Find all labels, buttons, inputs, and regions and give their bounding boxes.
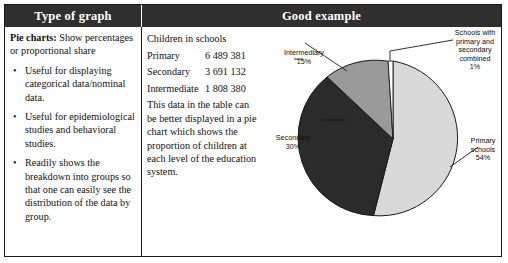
header-cell-good-example: Good example [142,5,501,27]
cell-graph-description: Pie charts: Show percentages or proporti… [5,27,141,256]
row-value-intermediate: 1 808 380 [205,81,246,98]
header-label-good-example: Good example [282,9,361,24]
row-label-intermediate: Intermediate [147,81,205,98]
row-label-secondary: Secondary [147,64,205,81]
pie-label-primary-percent: 54% [462,154,504,163]
pie-label-primary: Primary schools 54% [462,137,504,163]
example-explanation-paragraph: This data in the table can be better dis… [147,98,260,178]
table-row: Secondary3 691 132 [147,64,260,81]
pie-charts-benefits-list: • Useful for displaying categorical data… [10,64,135,223]
list-item: • Useful for epidemiological studies and… [10,110,135,150]
pie-label-secondary: Secondary 30% [264,134,322,151]
row-value-secondary: 3 691 132 [205,64,246,81]
list-item-text: Readily shows the breakdown into groups … [25,157,131,222]
pie-label-secondary-percent: 30% [264,143,322,152]
list-item-text: Useful for epidemiological studies and b… [25,111,135,149]
table-row: Primary6 489 381 [147,48,260,65]
list-item: • Useful for displaying categorical data… [10,64,135,104]
data-table-title: Children in schools [147,31,260,48]
bullet-icon: • [13,64,17,77]
pie-charts-definition: Pie charts: Show percentages or proporti… [10,31,135,58]
pie-chart: Intermediary 15% Secondary 30% Schools w… [264,27,501,256]
list-item-text: Useful for displaying categorical data/n… [25,65,125,103]
pie-charts-term: Pie charts: [10,32,57,43]
header-label-type-of-graph: Type of graph [34,9,111,24]
table-body-row: Pie charts: Show percentages or proporti… [5,27,501,256]
list-item: • Readily shows the breakdown into group… [10,156,135,223]
table-row: Intermediate1 808 380 [147,81,260,98]
leader-line-combined-2 [390,40,453,51]
pie-label-combined: Schools with primary and secondary combi… [448,29,502,72]
pie-label-intermediary: Intermediary 15% [272,49,336,66]
table-header-row: Type of graph Good example [5,5,501,27]
graph-type-table: Type of graph Good example Pie charts: S… [4,4,502,257]
cell-example-data: Children in schools Primary6 489 381 Sec… [142,27,264,256]
bullet-icon: • [13,110,17,123]
header-cell-type-of-graph: Type of graph [5,5,141,27]
row-label-primary: Primary [147,48,205,65]
row-value-primary: 6 489 381 [205,48,246,65]
pie-label-intermediary-percent: 15% [272,58,336,67]
pie-label-combined-percent: 1% [448,63,502,72]
cell-pie-chart-example: Intermediary 15% Secondary 30% Schools w… [264,27,501,256]
bullet-icon: • [13,156,17,169]
